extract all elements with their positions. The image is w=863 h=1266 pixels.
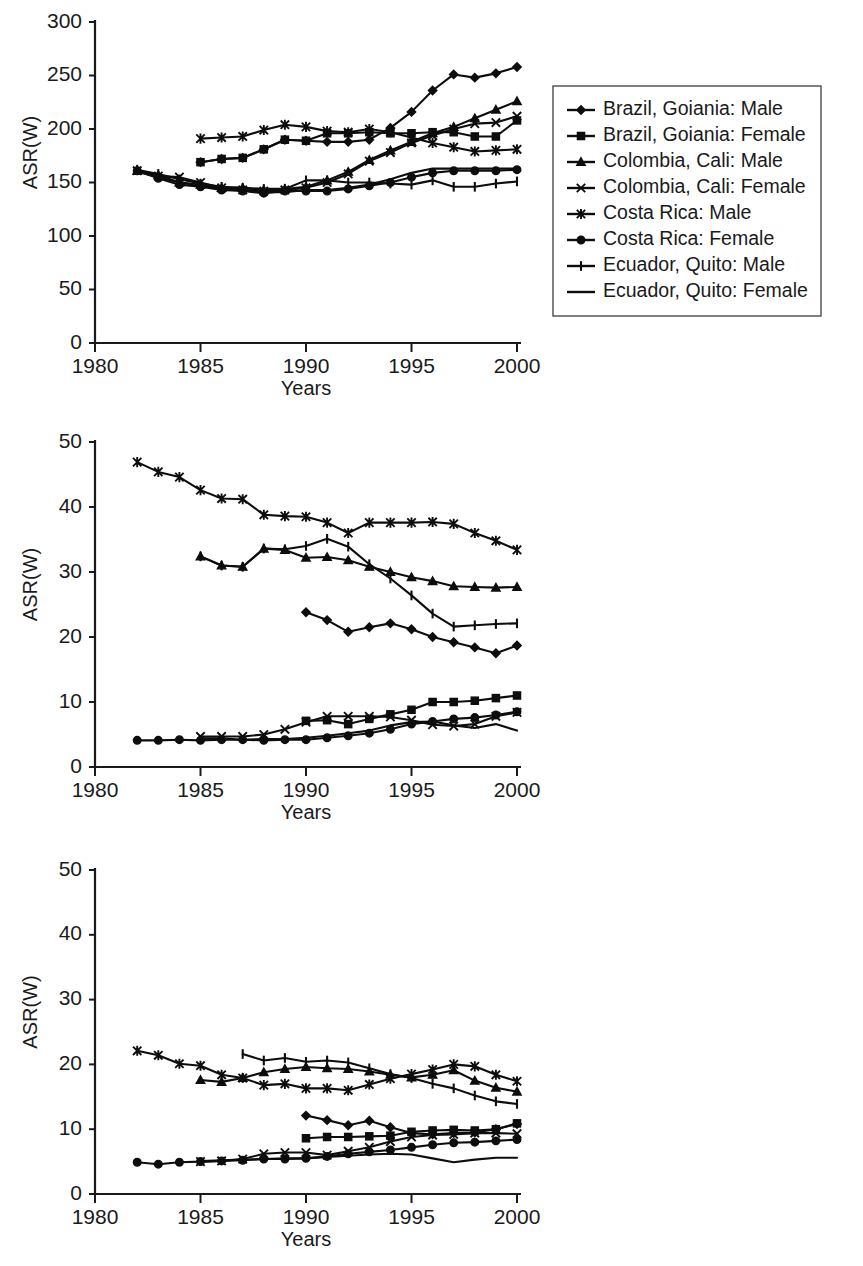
legend-item-label: Brazil, Goiania: Male bbox=[603, 97, 783, 119]
data-point-triangle-marker bbox=[513, 97, 521, 105]
data-point-circle-marker bbox=[450, 1139, 458, 1147]
legend-item-label: Colombia, Cali: Female bbox=[603, 175, 806, 197]
x-axis-tick-label: 1985 bbox=[177, 778, 224, 801]
data-point-square-marker bbox=[302, 1135, 309, 1142]
series-4 bbox=[196, 708, 521, 740]
chart-panel-2: 0102030405019801985199019952000YearsASR(… bbox=[0, 420, 863, 842]
data-point-diamond-marker bbox=[344, 138, 352, 146]
data-point-circle-marker bbox=[577, 236, 585, 244]
data-point-circle-marker bbox=[155, 1160, 163, 1168]
data-point-square-marker bbox=[260, 146, 267, 153]
data-point-diamond-marker bbox=[323, 138, 331, 146]
data-point-diamond-marker bbox=[386, 619, 394, 627]
data-point-diamond-marker bbox=[302, 608, 310, 616]
line-chart-1: 05010015020025030019801985199019952000Ye… bbox=[0, 0, 863, 422]
data-point-circle-marker bbox=[429, 169, 437, 177]
legend-item-label: Brazil, Goiania: Female bbox=[603, 123, 806, 145]
x-axis-tick-label: 1990 bbox=[283, 778, 330, 801]
x-axis-tick-label: 2000 bbox=[494, 778, 541, 801]
legend-item[interactable]: Ecuador, Quito: Female bbox=[567, 279, 808, 301]
data-point-square-marker bbox=[302, 137, 309, 144]
series-line bbox=[201, 67, 518, 162]
data-point-circle-marker bbox=[492, 711, 500, 719]
data-point-square-marker bbox=[471, 133, 478, 140]
x-axis-tick-label: 2000 bbox=[494, 1205, 541, 1228]
y-axis-tick-label: 100 bbox=[47, 223, 82, 246]
data-point-square-marker bbox=[197, 159, 204, 166]
data-point-circle-marker bbox=[176, 1158, 184, 1166]
data-point-square-marker bbox=[218, 155, 225, 162]
plot-area bbox=[133, 1046, 521, 1168]
x-axis-tick-label: 1995 bbox=[388, 778, 435, 801]
data-point-diamond-marker bbox=[513, 63, 521, 71]
data-point-circle-marker bbox=[429, 1141, 437, 1149]
axes: 0102030405019801985199019952000YearsASR(… bbox=[19, 857, 540, 1250]
data-point-circle-marker bbox=[513, 708, 521, 716]
data-point-diamond-marker bbox=[344, 1121, 352, 1129]
y-axis-tick-label: 300 bbox=[47, 9, 82, 32]
x-axis-tick-label: 1980 bbox=[72, 778, 119, 801]
axes: 05010015020025030019801985199019952000Ye… bbox=[19, 9, 540, 399]
x-axis-tick-label: 1990 bbox=[283, 1205, 330, 1228]
y-axis-tick-label: 30 bbox=[59, 986, 82, 1009]
data-point-diamond-marker bbox=[428, 633, 436, 641]
x-axis-tick-label: 1995 bbox=[388, 1205, 435, 1228]
data-point-diamond-marker bbox=[513, 641, 521, 649]
y-axis-tick-label: 10 bbox=[59, 689, 82, 712]
y-axis-tick-label: 40 bbox=[59, 494, 82, 517]
data-point-diamond-marker bbox=[365, 1117, 373, 1125]
x-axis-tick-label: 1985 bbox=[177, 1205, 224, 1228]
data-point-diamond-marker bbox=[492, 649, 500, 657]
series-3 bbox=[196, 544, 521, 591]
series-line bbox=[201, 125, 518, 152]
data-point-circle-marker bbox=[450, 715, 458, 723]
y-axis-tick-label: 50 bbox=[59, 857, 82, 880]
series-line bbox=[201, 539, 518, 627]
x-axis-title: Years bbox=[281, 801, 331, 823]
data-point-diamond-marker bbox=[492, 69, 500, 77]
x-axis-title: Years bbox=[281, 1228, 331, 1250]
x-axis-title: Years bbox=[281, 377, 331, 399]
legend-item-label: Ecuador, Quito: Female bbox=[603, 279, 808, 301]
y-axis-tick-label: 20 bbox=[59, 1051, 82, 1074]
y-axis-tick-label: 50 bbox=[59, 276, 82, 299]
data-point-square-marker bbox=[408, 706, 415, 713]
data-point-circle-marker bbox=[387, 1146, 395, 1154]
data-point-circle-marker bbox=[471, 1138, 479, 1146]
legend-item[interactable]: Colombia, Cali: Female bbox=[567, 175, 806, 197]
y-axis-tick-label: 0 bbox=[70, 754, 82, 777]
y-axis-tick-label: 0 bbox=[70, 1181, 82, 1204]
legend-item[interactable]: Brazil, Goiania: Female bbox=[567, 123, 806, 145]
data-point-circle-marker bbox=[133, 1158, 141, 1166]
y-axis-tick-label: 10 bbox=[59, 1116, 82, 1139]
data-point-square-marker bbox=[513, 692, 520, 699]
data-point-diamond-marker bbox=[471, 73, 479, 81]
y-axis-title: ASR(W) bbox=[19, 116, 41, 189]
data-point-star-marker bbox=[344, 528, 352, 538]
x-axis-tick-label: 2000 bbox=[494, 354, 541, 377]
y-axis-tick-label: 40 bbox=[59, 921, 82, 944]
y-axis-title-group: ASR(W) bbox=[19, 975, 41, 1048]
y-axis-tick-label: 0 bbox=[70, 330, 82, 353]
data-point-diamond-marker bbox=[323, 616, 331, 624]
data-point-star-marker bbox=[196, 485, 204, 495]
data-point-circle-marker bbox=[155, 737, 163, 745]
legend-item-label: Colombia, Cali: Male bbox=[603, 149, 783, 171]
figure-asr-trends: 05010015020025030019801985199019952000Ye… bbox=[0, 0, 863, 1266]
data-point-diamond-marker bbox=[302, 1111, 310, 1119]
plot-area bbox=[133, 63, 521, 197]
data-point-circle-marker bbox=[218, 736, 226, 744]
data-point-circle-marker bbox=[513, 166, 521, 174]
data-point-circle-marker bbox=[513, 1136, 521, 1144]
data-point-diamond-marker bbox=[323, 1116, 331, 1124]
data-point-square-marker bbox=[345, 1133, 352, 1140]
data-point-circle-marker bbox=[492, 1137, 500, 1145]
data-point-diamond-marker bbox=[365, 623, 373, 631]
data-point-circle-marker bbox=[133, 737, 141, 745]
y-axis-title-group: ASR(W) bbox=[19, 116, 41, 189]
y-axis-tick-label: 50 bbox=[59, 429, 82, 452]
data-point-circle-marker bbox=[176, 736, 184, 744]
line-chart-2: 0102030405019801985199019952000YearsASR(… bbox=[0, 420, 863, 842]
data-point-diamond-marker bbox=[365, 136, 373, 144]
x-axis-tick-label: 1985 bbox=[177, 354, 224, 377]
